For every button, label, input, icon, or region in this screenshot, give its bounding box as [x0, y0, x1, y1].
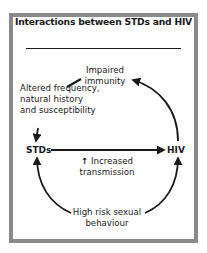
arrow-altered-to-stds: [36, 128, 38, 141]
stroke-impaired-to-altered: [67, 79, 81, 87]
arrow-highrisk-to-stds: [37, 158, 71, 213]
arrow-hiv-to-impaired-immunity: [133, 80, 178, 141]
diagram-arrows: [0, 0, 207, 253]
arrow-highrisk-to-hiv: [145, 158, 178, 213]
